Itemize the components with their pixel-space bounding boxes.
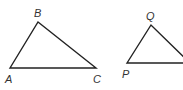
vertex-label-c: C xyxy=(93,73,101,85)
triangle-pq-shape xyxy=(127,25,183,63)
vertex-label-q: Q xyxy=(146,10,155,22)
diagram-canvas: A B C P Q xyxy=(0,0,183,90)
vertex-label-b: B xyxy=(34,7,41,19)
vertex-label-a: A xyxy=(4,73,12,85)
triangle-pq: P Q xyxy=(122,10,183,80)
triangle-abc: A B C xyxy=(4,7,101,85)
vertex-label-p: P xyxy=(122,68,130,80)
triangle-abc-shape xyxy=(10,22,96,68)
